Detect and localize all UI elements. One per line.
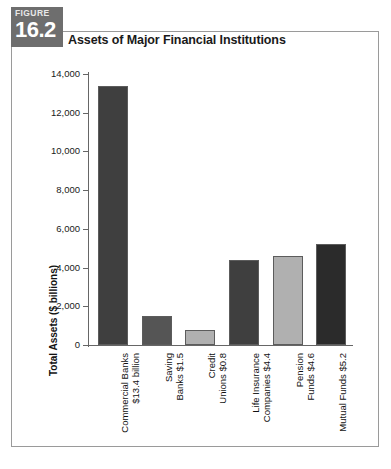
figure-container: FIGURE 16.2 Assets of Major Financial In… — [0, 0, 391, 469]
y-axis-tick-label: 4,000 — [24, 263, 80, 273]
bar — [273, 256, 303, 345]
bar — [229, 260, 259, 345]
y-axis-labels: 14,00012,00010,0008,0006,0004,0002,0000 — [22, 0, 80, 469]
chart-title: Assets of Major Financial Institutions — [68, 33, 286, 47]
y-axis-tick-label: 2,000 — [24, 301, 80, 311]
figure-number-badge: FIGURE 16.2 — [11, 7, 63, 47]
y-axis-tick-label: 6,000 — [24, 224, 80, 234]
bar — [185, 330, 215, 345]
x-axis-line — [88, 345, 353, 346]
bar — [142, 316, 172, 345]
plot-area — [89, 74, 351, 345]
bar — [98, 86, 128, 345]
bar — [316, 244, 346, 345]
y-axis-tick-label: 8,000 — [24, 185, 80, 195]
y-axis-tick-label: 0 — [24, 340, 80, 350]
y-axis-tick-label: 14,000 — [24, 69, 80, 79]
y-axis-tick-label: 12,000 — [24, 108, 80, 118]
y-axis-tick-label: 10,000 — [24, 146, 80, 156]
figure-badge-number: 16.2 — [15, 18, 63, 41]
y-axis-tick — [83, 345, 89, 346]
